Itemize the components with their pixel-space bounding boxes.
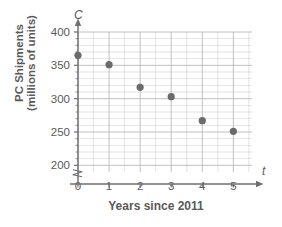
minor-gridlines (78, 32, 252, 172)
axis-break-icon (73, 170, 82, 177)
axis-lines (70, 19, 264, 188)
major-gridlines (78, 32, 252, 172)
plot-area (0, 0, 282, 227)
pc-shipments-scatter-chart: PC Shipments (millions of units) 400 350… (0, 0, 282, 227)
axis-tick-marks (74, 32, 233, 188)
